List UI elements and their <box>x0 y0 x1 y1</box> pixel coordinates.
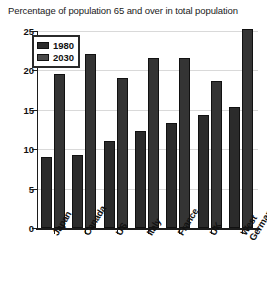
chart-figure: Percentage of population 65 and over in … <box>0 0 267 284</box>
chart-title: Percentage of population 65 and over in … <box>8 5 238 16</box>
y-axis-tick-label: 5 <box>8 185 34 194</box>
y-axis-tick-label: 20 <box>8 66 34 75</box>
legend-swatch-2030 <box>37 54 49 61</box>
bar-west-germany-2030 <box>242 29 253 228</box>
y-axis-tick-label: 25 <box>8 27 34 36</box>
bar-italy-2030 <box>148 58 159 228</box>
bar-france-2030 <box>179 58 190 228</box>
bar-canada-2030 <box>85 54 96 228</box>
bar-west-germany-1980 <box>229 107 240 228</box>
legend-label-1980: 1980 <box>53 41 74 50</box>
x-axis-labels: JapanCanadaUSItalyFranceUKWest Germany <box>0 232 267 284</box>
legend-label-2030: 2030 <box>53 53 74 62</box>
bar-france-1980 <box>166 123 177 228</box>
bar-japan-1980 <box>41 157 52 228</box>
y-axis-tick-label: 10 <box>8 145 34 154</box>
bar-italy-1980 <box>135 131 146 228</box>
bar-uk-2030 <box>211 81 222 228</box>
bar-canada-1980 <box>72 155 83 228</box>
chart-legend: 1980 2030 <box>32 35 80 68</box>
bar-us-1980 <box>104 141 115 228</box>
legend-item[interactable]: 2030 <box>37 52 74 63</box>
legend-swatch-1980 <box>37 42 49 49</box>
bar-japan-2030 <box>54 74 65 228</box>
bar-us-2030 <box>117 78 128 228</box>
legend-item[interactable]: 1980 <box>37 40 74 51</box>
y-axis-tick-label: 15 <box>8 106 34 115</box>
